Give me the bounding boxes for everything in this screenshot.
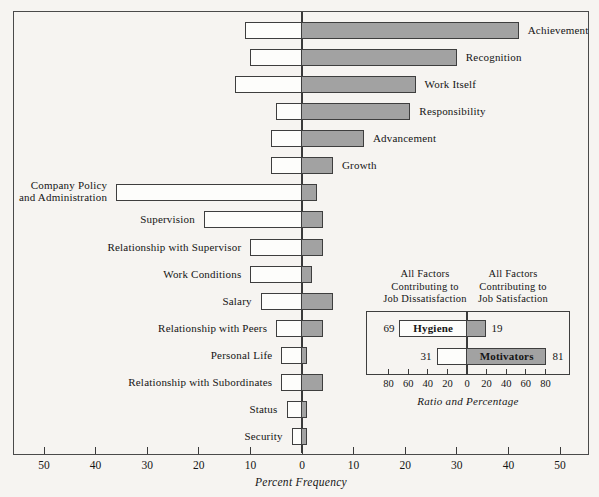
inset-axis-tick — [447, 369, 448, 375]
inset-axis-tick — [408, 369, 409, 375]
satisfaction-bar-relationship-with-subordinates — [301, 374, 323, 391]
factor-label-growth: Growth — [342, 159, 377, 171]
x-axis-tick-label: 40 — [81, 459, 111, 471]
inset-right-value-motivators: 81 — [552, 350, 563, 362]
inset-motivators-white-bar — [437, 348, 468, 365]
inset-axis-tick — [388, 369, 389, 375]
x-axis-tick-label: 10 — [235, 459, 265, 471]
dissatisfaction-bar-salary — [261, 293, 303, 310]
satisfaction-bar-salary — [301, 293, 333, 310]
inset-label-hygiene: Hygiene — [399, 322, 467, 334]
satisfaction-bar-personal-life — [301, 347, 307, 364]
x-axis-title: Percent Frequency — [13, 476, 589, 488]
x-axis-tick-label: 0 — [287, 459, 317, 471]
x-axis-tick — [456, 447, 457, 454]
satisfaction-bar-achievement — [301, 22, 519, 39]
x-axis-tick-label: 50 — [29, 459, 59, 471]
x-axis-tick — [508, 447, 509, 454]
factor-label-achievement: Achievement — [528, 24, 589, 36]
inset-axis-tick — [427, 369, 428, 375]
factor-label-supervision: Supervision — [16, 213, 195, 225]
x-axis-tick — [147, 447, 148, 454]
dissatisfaction-bar-work-conditions — [250, 266, 303, 283]
x-axis-tick — [44, 447, 45, 454]
inset-header-satisfaction: All Factors Contributing to Job Satisfac… — [447, 268, 579, 306]
dissatisfaction-bar-advancement — [271, 130, 303, 147]
inset-axis-tick — [467, 369, 468, 375]
inset-label-motivators: Motivators — [467, 350, 546, 362]
inset-axis-tick — [486, 369, 487, 375]
satisfaction-bar-growth — [301, 157, 333, 174]
dissatisfaction-bar-relationship-with-subordinates — [281, 374, 303, 391]
dissatisfaction-bar-recognition — [250, 49, 303, 66]
factor-label-work-itself: Work Itself — [425, 78, 477, 90]
factor-label-relationship-with-subordinates: Relationship with Subordinates — [16, 376, 272, 388]
satisfaction-bar-advancement — [301, 130, 364, 147]
satisfaction-bar-work-conditions — [301, 266, 312, 283]
satisfaction-bar-company-policy-and-administration — [301, 184, 317, 201]
x-axis-tick-label: 40 — [493, 459, 523, 471]
satisfaction-bar-work-itself — [301, 76, 416, 93]
dissatisfaction-bar-achievement — [245, 22, 303, 39]
dissatisfaction-bar-growth — [271, 157, 303, 174]
factor-label-relationship-with-peers: Relationship with Peers — [16, 322, 267, 334]
inset-axis-tick — [506, 369, 507, 375]
herzberg-two-factor-chart: Percent Frequency All Factors Contributi… — [0, 0, 599, 497]
x-axis-tick — [353, 447, 354, 454]
factor-label-salary: Salary — [16, 295, 252, 307]
satisfaction-bar-responsibility — [301, 103, 410, 120]
satisfaction-bar-recognition — [301, 49, 457, 66]
x-axis-tick-label: 30 — [132, 459, 162, 471]
x-axis-tick-label: 30 — [442, 459, 472, 471]
inset-axis-tick — [525, 369, 526, 375]
x-axis-tick — [405, 447, 406, 454]
factor-label-status: Status — [16, 403, 278, 415]
factor-label-work-conditions: Work Conditions — [16, 268, 241, 280]
x-axis-tick — [198, 447, 199, 454]
inset-hygiene-gray-bar — [466, 320, 486, 337]
factor-label-personal-life: Personal Life — [16, 349, 272, 361]
x-axis-tick-label: 20 — [184, 459, 214, 471]
x-axis-tick — [250, 447, 251, 454]
dissatisfaction-bar-relationship-with-supervisor — [250, 239, 303, 256]
x-axis-tick-label: 10 — [339, 459, 369, 471]
inset-right-value-hygiene: 19 — [492, 322, 503, 334]
dissatisfaction-bar-responsibility — [276, 103, 303, 120]
satisfaction-bar-status — [301, 401, 307, 418]
factor-label-company-policy-and-administration: Company Policy and Administration — [16, 179, 107, 203]
satisfaction-bar-security — [301, 428, 307, 445]
dissatisfaction-bar-work-itself — [235, 76, 303, 93]
factor-label-security: Security — [16, 430, 283, 442]
x-axis-tick-label: 20 — [390, 459, 420, 471]
dissatisfaction-bar-relationship-with-peers — [276, 320, 303, 337]
satisfaction-bar-relationship-with-peers — [301, 320, 323, 337]
dissatisfaction-bar-personal-life — [281, 347, 303, 364]
x-axis-tick — [302, 447, 303, 454]
factor-label-advancement: Advancement — [373, 132, 436, 144]
inset-axis-tick-label: 80 — [533, 378, 557, 389]
x-axis-tick — [560, 447, 561, 454]
inset-axis-title: Ratio and Percentage — [366, 395, 570, 407]
factor-label-responsibility: Responsibility — [419, 105, 485, 117]
factor-label-relationship-with-supervisor: Relationship with Supervisor — [16, 241, 241, 253]
dissatisfaction-bar-supervision — [204, 211, 303, 228]
dissatisfaction-bar-company-policy-and-administration — [116, 184, 303, 201]
satisfaction-bar-supervision — [301, 211, 323, 228]
x-axis-tick-label: 50 — [545, 459, 575, 471]
inset-left-value-hygiene: 69 — [372, 322, 394, 334]
inset-axis-tick — [545, 369, 546, 375]
x-axis-tick — [95, 447, 96, 454]
satisfaction-bar-relationship-with-supervisor — [301, 239, 323, 256]
factor-label-recognition: Recognition — [466, 51, 522, 63]
inset-left-value-motivators: 31 — [410, 350, 432, 362]
